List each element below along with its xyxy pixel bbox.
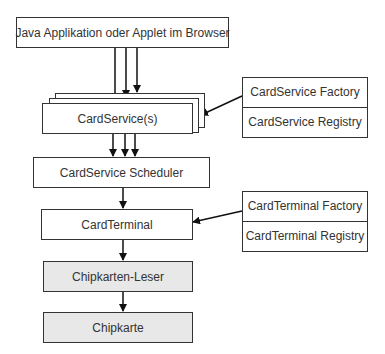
cardservice-factory-label: CardService Factory <box>250 85 359 99</box>
cardservice-factory-registry-node: CardService Factory CardService Registry <box>242 77 368 138</box>
cardterminal-factory-cell: CardTerminal Factory <box>243 192 367 222</box>
chipkarte-node: Chipkarte <box>43 312 193 343</box>
cardservice-label: CardService(s) <box>77 112 157 126</box>
java-application-node: Java Applikation oder Applet im Browser <box>16 17 229 48</box>
cardservice-scheduler-label: CardService Scheduler <box>60 166 183 180</box>
cardservice-factory-cell: CardService Factory <box>243 78 367 108</box>
cardservice-node: CardService(s) <box>42 103 193 134</box>
cardterminal-registry-label: CardTerminal Registry <box>246 229 365 243</box>
java-application-label: Java Applikation oder Applet im Browser <box>15 26 229 40</box>
cardservice-scheduler-node: CardService Scheduler <box>33 157 210 188</box>
chipkarten-leser-label: Chipkarten-Leser <box>72 270 164 284</box>
cardterminal-factory-label: CardTerminal Factory <box>248 199 363 213</box>
cardterminal-node: CardTerminal <box>41 209 193 240</box>
cardterminal-registry-cell: CardTerminal Registry <box>243 222 367 252</box>
cardterminal-label: CardTerminal <box>81 218 152 232</box>
chipkarte-label: Chipkarte <box>92 321 143 335</box>
cardservice-registry-label: CardService Registry <box>248 115 361 129</box>
cardterminal-factory-registry-node: CardTerminal Factory CardTerminal Regist… <box>242 191 368 252</box>
cardservice-registry-cell: CardService Registry <box>243 108 367 138</box>
chipkarten-leser-node: Chipkarten-Leser <box>43 261 193 292</box>
